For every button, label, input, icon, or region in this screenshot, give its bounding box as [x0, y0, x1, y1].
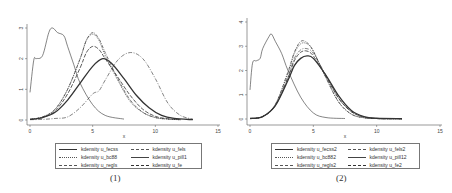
density-curve	[30, 46, 180, 119]
legend-label: kdensity u_pill1	[153, 154, 187, 160]
legend-item: kdensity u_regls	[59, 162, 127, 168]
legend-label: kdensity u_fe2	[370, 162, 402, 168]
legend-item: kdensity u_bc882	[275, 154, 344, 160]
legend-line-swatch-icon	[275, 165, 293, 166]
x-tick-label: 5	[312, 128, 315, 134]
density-curve	[30, 28, 124, 119]
legend-item: kdensity u_fecss2	[275, 146, 344, 152]
legend-item: kdensity u_fe	[131, 162, 199, 168]
legend-line-swatch-icon	[131, 165, 149, 166]
density-curve	[250, 43, 402, 119]
legend-label: kdensity u_pill12	[370, 154, 407, 160]
x-tick-label: 10	[374, 128, 380, 134]
x-axis-label: x	[344, 133, 347, 139]
legend-item: kdensity u_fe2	[348, 162, 417, 168]
x-axis-label: x	[123, 133, 126, 139]
legend-label: kdensity u_bc882	[297, 154, 336, 160]
y-tick-label: 3	[18, 26, 24, 29]
legend-line-swatch-icon	[131, 149, 149, 150]
y-tick-label: 2	[18, 57, 24, 60]
density-curve	[250, 34, 345, 119]
density-curve	[250, 41, 402, 119]
legend-label: kdensity u_fels2	[370, 146, 406, 152]
legend-item: kdensity u_fels2	[348, 146, 417, 152]
panel-1-caption: (1)	[110, 173, 121, 183]
y-tick-label: 1	[238, 93, 244, 96]
y-tick-label: 0	[238, 117, 244, 120]
y-tick-label: 2	[238, 69, 244, 72]
x-tick-label: 0	[29, 128, 32, 134]
y-tick-label: 3	[238, 45, 244, 48]
legend-label: kdensity u_regls	[81, 162, 117, 168]
legend-label: kdensity u_regls2	[297, 162, 336, 168]
legend-item: kdensity u_fels	[131, 146, 199, 152]
legend-item: kdensity u_bc88	[59, 154, 127, 160]
legend-label: kdensity u_fels	[153, 146, 186, 152]
y-tick-label: 4	[238, 20, 244, 23]
legend-label: kdensity u_fe	[153, 162, 182, 168]
legend-line-swatch-icon	[348, 149, 366, 150]
density-curve	[30, 33, 180, 120]
y-tick-label: 1	[18, 88, 24, 91]
x-tick-label: 15	[215, 128, 221, 134]
legend-line-swatch-icon	[131, 157, 149, 158]
legend-label: kdensity u_fecss	[81, 146, 118, 152]
panel-2-caption: (2)	[336, 173, 347, 183]
panel-1-legend: kdensity u_fecsskdensity u_felskdensity …	[55, 143, 202, 169]
x-tick-label: 10	[153, 128, 159, 134]
legend-item: kdensity u_fecss	[59, 146, 127, 152]
legend-line-swatch-icon	[59, 149, 77, 150]
legend-line-swatch-icon	[275, 157, 293, 158]
legend-item: kdensity u_pill1	[131, 154, 199, 160]
panel-2-plot: 01234051015x	[238, 18, 443, 139]
legend-item: kdensity u_regls2	[275, 162, 344, 168]
y-tick-label: 0	[18, 118, 24, 121]
panel-2-legend: kdensity u_fecss2kdensity u_fels2kdensit…	[271, 143, 420, 169]
x-tick-label: 5	[91, 128, 94, 134]
legend-label: kdensity u_fecss2	[297, 146, 337, 152]
legend-line-swatch-icon	[348, 165, 366, 166]
x-tick-label: 15	[437, 128, 443, 134]
legend-item: kdensity u_pill12	[348, 154, 417, 160]
legend-label: kdensity u_bc88	[81, 154, 117, 160]
density-curve	[30, 34, 180, 120]
legend-line-swatch-icon	[59, 165, 77, 166]
legend-line-swatch-icon	[59, 157, 77, 158]
legend-line-swatch-icon	[275, 149, 293, 150]
x-tick-label: 0	[249, 128, 252, 134]
panel-1-plot: 0123051015x	[18, 24, 221, 139]
legend-line-swatch-icon	[348, 157, 366, 158]
